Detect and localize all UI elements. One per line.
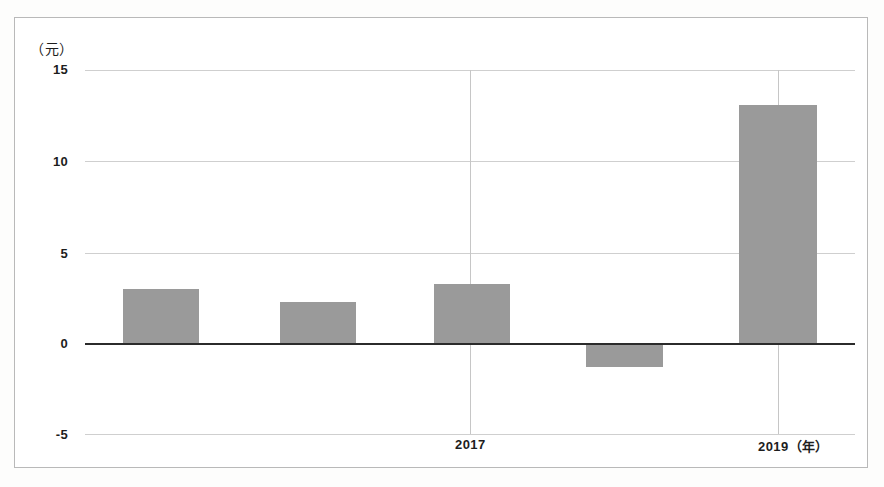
bar-2015 — [123, 289, 199, 344]
y-tick-label-15: 15 — [22, 62, 68, 77]
gridline-y-minus5 — [85, 434, 855, 435]
bar-2016 — [280, 302, 356, 344]
y-tick-label-5: 5 — [22, 246, 68, 261]
gridline-x-2017 — [470, 70, 471, 434]
chart-plot-area: （元） 15 10 5 0 -5 2017 2019（年） — [0, 0, 884, 487]
y-tick-label-0: 0 — [22, 336, 68, 351]
zero-axis-line — [85, 343, 855, 345]
x-tick-label-2019: 2019（年） — [758, 436, 829, 455]
x-tick-label-2017: 2017 — [455, 437, 486, 452]
y-tick-label-minus5: -5 — [22, 427, 68, 442]
bar-2019 — [739, 105, 817, 344]
bar-2017 — [434, 284, 510, 344]
y-axis-unit-label: （元） — [30, 38, 74, 58]
y-tick-label-10: 10 — [22, 154, 68, 169]
chart-page: （元） 15 10 5 0 -5 2017 2019（年） — [0, 0, 884, 487]
bar-2018 — [586, 345, 663, 367]
